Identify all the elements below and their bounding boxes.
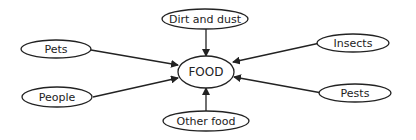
pets-label: Pets: [44, 43, 67, 56]
food-label: FOOD: [188, 65, 223, 79]
other-food-label: Other food: [176, 115, 235, 128]
edge-people-to-food: [93, 78, 178, 97]
node-dirt-and-dust: Dirt and dust: [162, 9, 248, 29]
node-pests: Pests: [319, 84, 391, 102]
node-pets: Pets: [21, 40, 91, 58]
node-people: People: [22, 87, 92, 107]
dirt-and-dust-label: Dirt and dust: [169, 13, 242, 26]
edge-pets-to-food: [91, 50, 178, 65]
people-label: People: [39, 91, 76, 104]
pests-label: Pests: [341, 87, 370, 100]
insects-label: Insects: [334, 37, 373, 50]
node-food: FOOD: [178, 56, 234, 88]
food-contamination-diagram: FOOD Dirt and dust Pets Insects People P…: [0, 0, 416, 140]
edge-insects-to-food-line: [233, 43, 320, 62]
edge-pests-to-food: [234, 77, 322, 93]
node-other-food: Other food: [163, 111, 249, 131]
node-insects: Insects: [317, 34, 389, 52]
